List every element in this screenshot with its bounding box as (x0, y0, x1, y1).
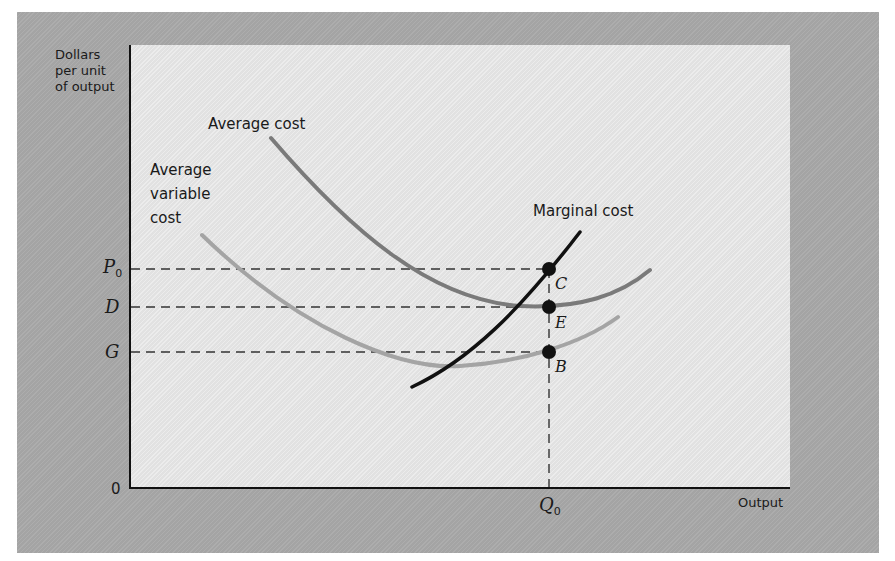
marginal-cost-label: Marginal cost (533, 201, 633, 221)
avc-label-line-1: Average (150, 158, 212, 182)
cost-curves-chart (0, 0, 895, 561)
q0-subscript: 0 (554, 505, 561, 518)
origin-label: 0 (111, 479, 121, 499)
avc-label: Average variable cost (150, 158, 212, 230)
p0-subscript: 0 (115, 267, 122, 280)
y-axis-label-line-2: per unit (55, 63, 115, 79)
avc-label-line-3: cost (150, 206, 212, 230)
y-axis-label: Dollars per unit of output (55, 47, 115, 95)
p0-letter: P (103, 256, 115, 277)
x-axis-label: Output (738, 495, 783, 511)
y-axis-label-line-3: of output (55, 79, 115, 95)
avc-label-line-2: variable (150, 182, 212, 206)
point-e-marker (542, 300, 556, 314)
point-b-label: B (555, 357, 567, 377)
point-c-label: C (555, 274, 567, 294)
average-variable-cost-curve (202, 235, 618, 366)
q0-letter: Q (539, 494, 554, 515)
average-cost-curve (271, 138, 650, 306)
y-axis-label-line-1: Dollars (55, 47, 115, 63)
point-c-marker (542, 262, 556, 276)
point-e-label: E (555, 313, 567, 333)
point-b-marker (542, 345, 556, 359)
p0-tick-label: P0 (103, 257, 122, 284)
d-tick-label: D (105, 297, 119, 317)
q0-tick-label: Q0 (539, 495, 561, 522)
average-cost-label: Average cost (208, 114, 306, 134)
g-tick-label: G (105, 342, 119, 362)
